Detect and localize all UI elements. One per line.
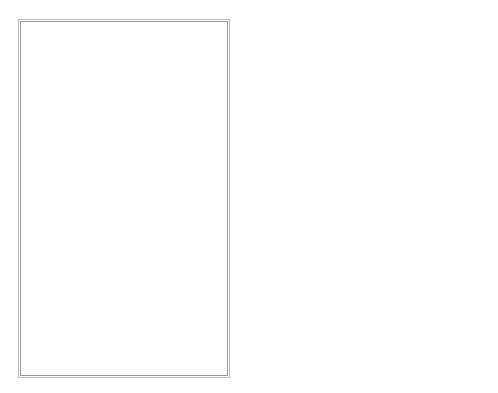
map-neatline-box — [21, 22, 228, 376]
map-frame-outer — [19, 20, 230, 378]
map-container — [0, 0, 498, 393]
map-drawing — [0, 0, 498, 393]
